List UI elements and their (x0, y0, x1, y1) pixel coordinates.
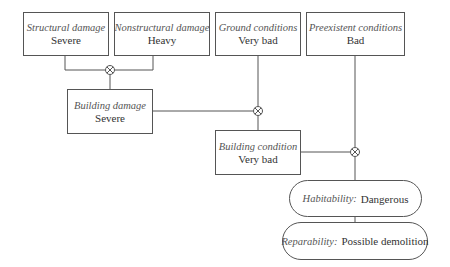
node-label: Preexistent conditions (309, 21, 402, 34)
node-value: Very bad (238, 153, 277, 166)
node-label: Ground conditions (219, 21, 298, 34)
node-value: Severe (95, 112, 125, 125)
node-value: Very bad (238, 34, 277, 47)
ground-conditions-node: Ground conditions Very bad (215, 12, 301, 56)
node-value: Bad (347, 34, 365, 47)
structural-damage-node: Structural damage Severe (23, 12, 109, 56)
habitability-output: Habitability: Dangerous (289, 180, 422, 217)
output-value: Possible demolition (341, 235, 428, 247)
node-value: Severe (51, 34, 81, 47)
node-value: Heavy (148, 34, 177, 47)
node-label: Building condition (219, 140, 297, 153)
node-label: Structural damage (27, 21, 105, 34)
reparability-output: Reparability: Possible demolition (282, 222, 428, 260)
nonstructural-damage-node: Nonstructural damage Heavy (114, 12, 210, 56)
junction-1-icon (106, 66, 115, 75)
junction-3-icon (351, 148, 360, 157)
output-value: Dangerous (361, 193, 409, 205)
preexistent-conditions-node: Preexistent conditions Bad (306, 12, 405, 56)
building-damage-node: Building damage Severe (67, 89, 153, 134)
junction-2-icon (254, 107, 263, 116)
node-label: Nonstructural damage (115, 21, 210, 34)
output-label: Habitability: (303, 193, 357, 204)
node-label: Building damage (74, 99, 146, 112)
output-label: Reparability: (281, 236, 337, 247)
building-condition-node: Building condition Very bad (215, 130, 301, 175)
